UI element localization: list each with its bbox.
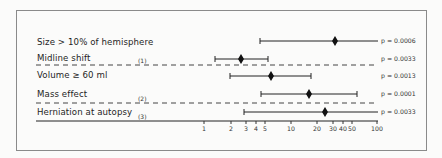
estimate-marker	[332, 36, 338, 46]
tick-label-20: 20	[313, 125, 321, 132]
estimate-marker	[322, 107, 328, 117]
estimate-marker	[268, 71, 274, 81]
ci-row-1	[260, 36, 378, 46]
p-value-3: p = 0.0013	[381, 72, 416, 79]
tick-label-10: 10	[287, 125, 295, 132]
p-value-2: p = 0.0033	[381, 55, 416, 62]
estimate-marker	[238, 54, 244, 64]
tick-label-30: 30	[329, 125, 337, 132]
group-marker-1: (1)	[138, 57, 147, 64]
group-marker-3: (3)	[138, 113, 147, 120]
tick-label-1: 1	[202, 125, 206, 132]
tick-label-2: 2	[229, 125, 233, 132]
row-label-volume: Volume ≥ 60 ml	[37, 70, 107, 80]
p-value-1: p = 0.0006	[381, 37, 416, 44]
group-marker-2: (2)	[138, 95, 147, 102]
ci-row-3	[230, 71, 311, 81]
tick-label-100: 100	[371, 125, 383, 132]
p-value-5: p = 0.0033	[381, 108, 416, 115]
p-value-4: p = 0.0001	[381, 90, 416, 97]
row-label-midline-shift: Midline shift	[37, 53, 90, 63]
tick-label-40: 40	[339, 125, 347, 132]
ci-row-2	[215, 54, 268, 64]
tick-label-50: 50	[348, 125, 356, 132]
tick-label-3: 3	[244, 125, 248, 132]
ci-row-5	[244, 107, 378, 117]
row-label-herniation: Herniation at autopsy	[37, 107, 132, 117]
tick-label-4: 4	[254, 125, 258, 132]
ci-row-4	[261, 89, 357, 99]
estimate-marker	[306, 89, 312, 99]
row-label-mass-effect: Mass effect	[37, 89, 87, 99]
row-label-size: Size > 10% of hemisphere	[37, 37, 153, 47]
tick-label-5: 5	[263, 125, 267, 132]
